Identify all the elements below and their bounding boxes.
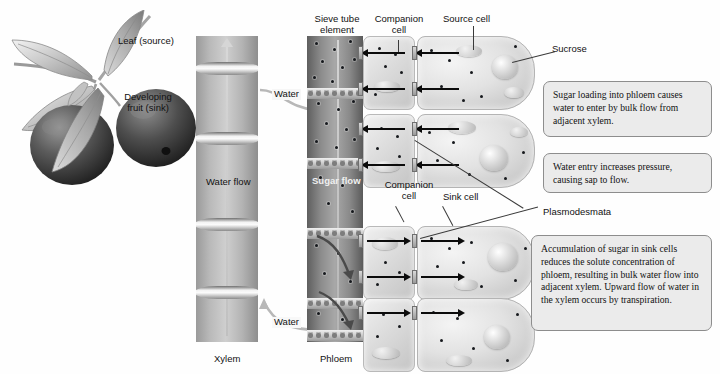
- companion-cell: [363, 114, 415, 188]
- plasmodesmata-channel: [412, 82, 417, 96]
- sucrose-transport-arrow: [421, 276, 459, 278]
- plasmodesmata-channel: [358, 270, 363, 284]
- label-developing-fruit: Developing fruit (sink): [116, 92, 180, 114]
- sucrose-transport-arrow: [421, 88, 459, 90]
- sucrose-transport-arrow: [421, 312, 459, 314]
- plasmodesmata-channel: [358, 158, 363, 172]
- plasmodesmata-channel: [412, 46, 417, 60]
- plasmodesmata-channel: [412, 270, 417, 284]
- sucrose-transport-arrow: [421, 128, 459, 130]
- plasmodesmata-channel: [412, 234, 417, 248]
- plasmodesmata-channel: [412, 122, 417, 136]
- source-cell-row: [363, 36, 535, 110]
- sieve-plate: [307, 88, 363, 99]
- callout-sugar-accumulation: Accumulation of sugar in sink cells redu…: [531, 235, 712, 331]
- companion-cell: [363, 36, 415, 110]
- xylem-ring: [196, 132, 258, 145]
- label-xylem: Xylem: [214, 354, 240, 365]
- label-companion-cell-top: Companion cell: [370, 14, 428, 36]
- callout-sugar-loading: Sugar loading into phloem causes water t…: [543, 81, 712, 137]
- sink-cell: [417, 226, 535, 300]
- sucrose-transport-arrow: [367, 88, 405, 90]
- sucrose-transport-arrow: [421, 52, 459, 54]
- plasmodesmata-channel: [358, 82, 363, 96]
- sucrose-transport-arrow: [367, 164, 405, 166]
- plasmodesmata-channel: [358, 46, 363, 60]
- sucrose-transport-arrow: [367, 312, 405, 314]
- xylem-ring: [196, 62, 258, 75]
- label-sink-cell: Sink cell: [443, 192, 478, 203]
- sink-cell-row: [363, 298, 535, 372]
- plasmodesmata-channel: [412, 158, 417, 172]
- xylem-ring: [196, 218, 258, 231]
- plasmodesmata-channel: [358, 122, 363, 136]
- leader-companion-cell-top: [398, 40, 399, 52]
- sink-cell: [417, 298, 535, 372]
- source-cell-row: [363, 114, 535, 188]
- label-water-bottom: Water: [272, 317, 301, 328]
- label-companion-cell-mid: Companion cell: [380, 180, 438, 202]
- phloem-sieve-tube: [307, 36, 363, 342]
- label-sucrose: Sucrose: [552, 44, 587, 55]
- label-source-cell: Source cell: [443, 14, 490, 25]
- diagram-canvas: Leaf (source) Developing fruit (sink) Wa…: [0, 0, 720, 374]
- plasmodesmata-channel: [358, 234, 363, 248]
- sucrose-transport-arrow: [421, 240, 459, 242]
- sieve-plate: [307, 158, 363, 169]
- label-leaf-source: Leaf (source): [118, 36, 174, 47]
- xylem-flow-arrow-head: [221, 38, 233, 47]
- sucrose-transport-arrow: [367, 128, 405, 130]
- plasmodesmata-channel: [358, 306, 363, 320]
- plasmodesmata-channel: [412, 306, 417, 320]
- sucrose-transport-arrow: [367, 240, 405, 242]
- label-plasmodesmata: Plasmodesmata: [543, 207, 611, 218]
- callout-water-entry: Water entry increases pressure, causing …: [543, 153, 712, 193]
- source-cell: [417, 36, 535, 110]
- label-water-top: Water: [272, 89, 301, 100]
- source-cell: [417, 114, 535, 188]
- sucrose-transport-arrow: [367, 276, 405, 278]
- sink-cell-row: [363, 226, 535, 300]
- sucrose-transport-arrow: [367, 52, 405, 54]
- label-sieve-tube-element: Sieve tube element: [306, 14, 368, 36]
- label-phloem: Phloem: [320, 354, 352, 365]
- label-water-flow: Water flow: [206, 177, 251, 188]
- leader-source-cell: [473, 26, 474, 50]
- label-sugar-flow: Sugar flow: [312, 176, 361, 187]
